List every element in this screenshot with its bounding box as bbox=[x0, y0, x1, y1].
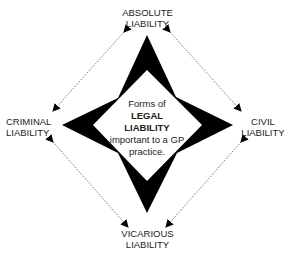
node-absolute-line1: ABSOLUTE bbox=[110, 7, 185, 18]
node-criminal-line1: CRIMINAL bbox=[6, 116, 58, 127]
node-vicarious-line1: VICARIOUS bbox=[110, 228, 185, 239]
node-civil-liability: CIVIL LIABILITY bbox=[234, 116, 292, 138]
node-civil-line2: LIABILITY bbox=[234, 127, 292, 138]
center-line3: LIABILITY bbox=[97, 122, 197, 134]
node-absolute-line2: LIABILITY bbox=[110, 18, 185, 29]
node-criminal-line2: LIABILITY bbox=[6, 127, 58, 138]
center-line1: Forms of bbox=[97, 98, 197, 110]
node-vicarious-liability: VICARIOUS LIABILITY bbox=[110, 228, 185, 250]
center-line4: important to a GP bbox=[97, 134, 197, 146]
center-line2: LEGAL bbox=[97, 110, 197, 122]
node-civil-line1: CIVIL bbox=[234, 116, 292, 127]
node-vicarious-line2: LIABILITY bbox=[110, 239, 185, 250]
center-line5: practice. bbox=[97, 146, 197, 158]
node-criminal-liability: CRIMINAL LIABILITY bbox=[6, 116, 58, 138]
node-absolute-liability: ABSOLUTE LIABILITY bbox=[110, 7, 185, 29]
center-title: Forms of LEGAL LIABILITY important to a … bbox=[97, 98, 197, 158]
